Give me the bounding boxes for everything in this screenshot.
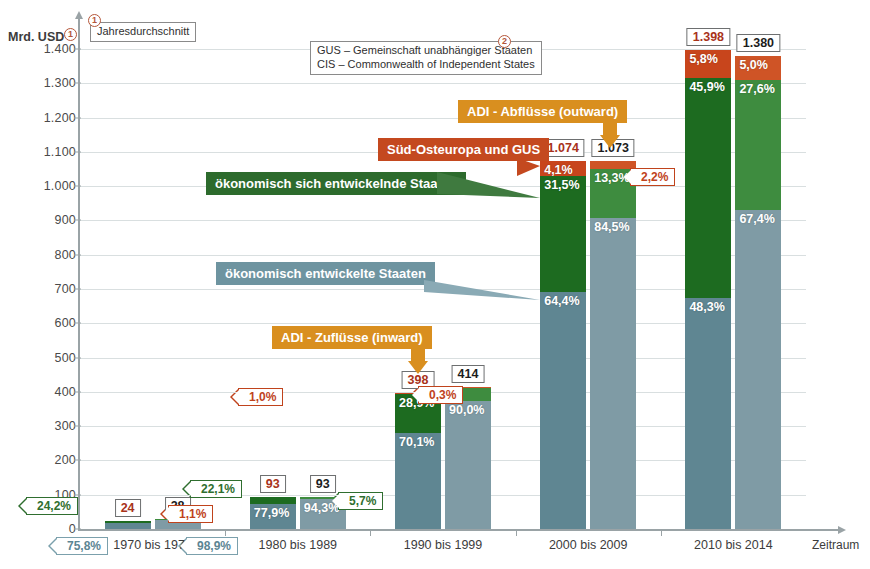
bar-total-label: 93 bbox=[260, 475, 286, 493]
segment-label: 64,4% bbox=[544, 294, 579, 308]
bar-outward[interactable]: 67,4%27,6%5,0% bbox=[735, 56, 781, 529]
segment-developed bbox=[105, 523, 151, 529]
segment-see-cis: 5,8% bbox=[685, 50, 731, 78]
segment-label: 70,1% bbox=[399, 435, 434, 449]
segment-label: 5,8% bbox=[689, 52, 718, 66]
y-tick-mark bbox=[74, 49, 81, 50]
callout-see-cis: Süd-Osteuropa und GUS bbox=[378, 138, 549, 161]
segment-developed: 70,1% bbox=[395, 433, 441, 529]
callout-inward-arrow bbox=[408, 348, 428, 374]
x-tick-label: 1980 bis 1989 bbox=[259, 538, 338, 552]
segment-developed: 67,4% bbox=[735, 210, 781, 529]
segment-developing bbox=[250, 497, 296, 504]
segment-developed: 48,3% bbox=[685, 298, 731, 530]
y-tick-label: 1.100 bbox=[16, 145, 76, 159]
y-tick-mark bbox=[74, 460, 81, 461]
segment-label: 67,4% bbox=[739, 212, 774, 226]
x-axis-line bbox=[78, 529, 838, 531]
y-tick-label: 400 bbox=[16, 385, 76, 399]
bar-outward[interactable]: 84,5%13,3% bbox=[590, 161, 636, 529]
y-tick-mark bbox=[74, 494, 81, 495]
x-tick-mark bbox=[516, 529, 517, 536]
bar-inward[interactable]: 64,4%31,5%4,1% bbox=[540, 161, 586, 529]
x-tick-mark bbox=[661, 529, 662, 536]
x-tick-mark bbox=[370, 529, 371, 536]
y-tick-label: 600 bbox=[16, 316, 76, 330]
y-tick-label: 1.000 bbox=[16, 179, 76, 193]
bar-outward[interactable]: 90,0% bbox=[445, 387, 491, 529]
segment-label: 90,0% bbox=[449, 403, 484, 417]
y-tick-mark bbox=[74, 391, 81, 392]
y-tick-mark bbox=[74, 151, 81, 152]
flag-1970-inward-developing: 24,2% bbox=[26, 497, 78, 515]
y-tick-label: 200 bbox=[16, 453, 76, 467]
segment-developed: 90,0% bbox=[445, 401, 491, 529]
y-tick-mark bbox=[74, 323, 81, 324]
flag-1990-inward-seecis: 1,0% bbox=[238, 388, 283, 406]
segment-label: 4,1% bbox=[544, 163, 573, 176]
y-tick-mark bbox=[74, 83, 81, 84]
footnote-marker-1b: 1 bbox=[88, 14, 101, 27]
callout-developed: ökonomisch entwickelte Staaten bbox=[216, 262, 435, 285]
flag-1980-inward-developing: 22,1% bbox=[190, 480, 242, 498]
flag-1970-outward-developed: 98,9% bbox=[186, 537, 238, 555]
y-tick-mark bbox=[74, 117, 81, 118]
callout-developing: ökonomisch sich entwickelnde Staaten bbox=[206, 172, 466, 195]
footnote-box-1: Jahresdurchschnitt bbox=[90, 22, 196, 42]
footnote-marker-1: 1 bbox=[64, 28, 77, 41]
y-tick-label: 700 bbox=[16, 282, 76, 296]
y-tick-label: 300 bbox=[16, 419, 76, 433]
segment-label: 5,0% bbox=[739, 58, 768, 72]
y-tick-label: 1.300 bbox=[16, 76, 76, 90]
segment-developing: 31,5% bbox=[540, 176, 586, 292]
y-axis-line bbox=[78, 18, 80, 530]
flag-1990-outward-seecis: 0,3% bbox=[418, 386, 463, 404]
bar-inward[interactable]: 70,1%28,9% bbox=[395, 393, 441, 529]
y-tick-label: 1.400 bbox=[16, 42, 76, 56]
flag-1970-outward-developing: 1,1% bbox=[168, 505, 213, 523]
segment-see-cis: 5,0% bbox=[735, 56, 781, 80]
segment-label: 48,3% bbox=[689, 300, 724, 314]
y-tick-label: 900 bbox=[16, 213, 76, 227]
chart-canvas: Mrd. USD 1 Zeitraum 01002003004005006007… bbox=[0, 0, 870, 569]
x-tick-label: 2010 bis 2014 bbox=[694, 538, 773, 552]
callout-outward-arrow bbox=[600, 122, 620, 148]
segment-developing bbox=[105, 521, 151, 523]
flag-2000-outward-seecis: 2,2% bbox=[630, 168, 675, 186]
x-tick-mark bbox=[225, 529, 226, 536]
segment-developed: 64,4% bbox=[540, 292, 586, 529]
segment-developing: 27,6% bbox=[735, 80, 781, 211]
flag-1980-outward-developing: 5,7% bbox=[338, 492, 383, 510]
x-axis-title: Zeitraum bbox=[812, 538, 859, 552]
x-tick-label: 1990 bis 1999 bbox=[404, 538, 483, 552]
callout-inward: ADI - Zuflüsse (inward) bbox=[272, 326, 432, 349]
segment-developed: 84,5% bbox=[590, 218, 636, 529]
y-tick-label: 1.200 bbox=[16, 111, 76, 125]
segment-label: 45,9% bbox=[689, 80, 724, 94]
bar-inward[interactable]: 48,3%45,9%5,8% bbox=[685, 50, 731, 529]
segment-label: 77,9% bbox=[254, 506, 289, 520]
y-tick-mark bbox=[74, 426, 81, 427]
x-tick-label: 2000 bis 2009 bbox=[549, 538, 628, 552]
y-tick-mark bbox=[74, 254, 81, 255]
y-tick-mark bbox=[74, 289, 81, 290]
y-tick-mark bbox=[74, 529, 81, 530]
y-tick-label: 500 bbox=[16, 351, 76, 365]
segment-label: 31,5% bbox=[544, 178, 579, 192]
segment-see-cis: 4,1% bbox=[540, 161, 586, 176]
y-tick-mark bbox=[74, 357, 81, 358]
flag-1970-inward-developed: 75,8% bbox=[56, 537, 108, 555]
segment-label: 27,6% bbox=[739, 82, 774, 96]
callout-outward: ADI - Abflüsse (outward) bbox=[458, 100, 627, 123]
segment-label: 84,5% bbox=[594, 220, 629, 234]
y-tick-mark bbox=[74, 186, 81, 187]
y-tick-label: 0 bbox=[16, 522, 76, 536]
bar-inward[interactable] bbox=[105, 521, 151, 529]
segment-developed: 77,9% bbox=[250, 504, 296, 529]
y-tick-mark bbox=[74, 220, 81, 221]
bar-total-label: 1.398 bbox=[687, 28, 730, 46]
bar-total-label: 93 bbox=[310, 475, 336, 493]
footnote-marker-2: 2 bbox=[498, 35, 511, 48]
bar-total-label: 414 bbox=[452, 365, 485, 383]
bar-inward[interactable]: 77,9% bbox=[250, 497, 296, 529]
